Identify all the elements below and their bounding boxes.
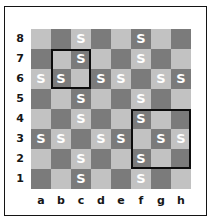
file-label-b: b	[51, 193, 71, 209]
square-e7[interactable]	[111, 49, 131, 69]
square-h2[interactable]	[171, 149, 191, 169]
square-c6[interactable]	[71, 69, 91, 89]
square-h7[interactable]	[171, 49, 191, 69]
board-area: 87654321 abcdefgh SSSSSSSSSSSSSSSSSSSSSS…	[5, 7, 208, 217]
square-d7[interactable]	[91, 49, 111, 69]
file-label-f: f	[131, 193, 151, 209]
square-h1[interactable]	[171, 169, 191, 189]
square-a1[interactable]	[31, 169, 51, 189]
rank-label-1: 1	[13, 169, 27, 189]
square-e3[interactable]: S	[111, 129, 131, 149]
marker-c7: S	[71, 49, 91, 69]
square-g5[interactable]	[151, 89, 171, 109]
rank-label-3: 3	[13, 129, 27, 149]
square-h8[interactable]	[171, 29, 191, 49]
square-c4[interactable]: S	[71, 109, 91, 129]
rank-label-8: 8	[13, 29, 27, 49]
square-g6[interactable]: S	[151, 69, 171, 89]
square-a7[interactable]	[31, 49, 51, 69]
marker-e6: S	[111, 69, 131, 89]
marker-b6: S	[51, 69, 71, 89]
square-a6[interactable]: S	[31, 69, 51, 89]
square-f2[interactable]: S	[131, 149, 151, 169]
square-b8[interactable]	[51, 29, 71, 49]
square-g2[interactable]	[151, 149, 171, 169]
marker-d6: S	[91, 69, 111, 89]
file-label-d: d	[91, 193, 111, 209]
square-g1[interactable]	[151, 169, 171, 189]
square-e1[interactable]	[111, 169, 131, 189]
square-e4[interactable]	[111, 109, 131, 129]
square-a4[interactable]	[31, 109, 51, 129]
rank-label-2: 2	[13, 149, 27, 169]
square-h6[interactable]: S	[171, 69, 191, 89]
square-a5[interactable]	[31, 89, 51, 109]
marker-c1: S	[71, 169, 91, 189]
marker-c4: S	[71, 109, 91, 129]
square-g7[interactable]	[151, 49, 171, 69]
marker-b3: S	[51, 129, 71, 149]
square-d5[interactable]	[91, 89, 111, 109]
marker-f7: S	[131, 49, 151, 69]
square-f5[interactable]: S	[131, 89, 151, 109]
square-b1[interactable]	[51, 169, 71, 189]
square-h5[interactable]	[171, 89, 191, 109]
rank-label-5: 5	[13, 89, 27, 109]
file-label-g: g	[151, 193, 171, 209]
marker-d3: S	[91, 129, 111, 149]
square-d8[interactable]	[91, 29, 111, 49]
marker-g6: S	[151, 69, 171, 89]
square-h4[interactable]	[171, 109, 191, 129]
square-b3[interactable]: S	[51, 129, 71, 149]
square-c3[interactable]	[71, 129, 91, 149]
square-e2[interactable]	[111, 149, 131, 169]
square-f8[interactable]: S	[131, 29, 151, 49]
square-c7[interactable]: S	[71, 49, 91, 69]
square-d1[interactable]	[91, 169, 111, 189]
rank-label-4: 4	[13, 109, 27, 129]
square-f1[interactable]: S	[131, 169, 151, 189]
square-a2[interactable]	[31, 149, 51, 169]
square-d4[interactable]	[91, 109, 111, 129]
square-d2[interactable]	[91, 149, 111, 169]
square-g4[interactable]	[151, 109, 171, 129]
square-b6[interactable]: S	[51, 69, 71, 89]
marker-f5: S	[131, 89, 151, 109]
square-b7[interactable]	[51, 49, 71, 69]
square-b4[interactable]	[51, 109, 71, 129]
square-d6[interactable]: S	[91, 69, 111, 89]
file-label-c: c	[71, 193, 91, 209]
square-h3[interactable]: S	[171, 129, 191, 149]
rank-label-6: 6	[13, 69, 27, 89]
marker-c5: S	[71, 89, 91, 109]
marker-f2: S	[131, 149, 151, 169]
square-c2[interactable]: S	[71, 149, 91, 169]
marker-e3: S	[111, 129, 131, 149]
marker-c2: S	[71, 149, 91, 169]
square-e6[interactable]: S	[111, 69, 131, 89]
square-a8[interactable]	[31, 29, 51, 49]
square-c5[interactable]: S	[71, 89, 91, 109]
marker-a6: S	[31, 69, 51, 89]
square-e5[interactable]	[111, 89, 131, 109]
square-f7[interactable]: S	[131, 49, 151, 69]
marker-c8: S	[71, 29, 91, 49]
square-g8[interactable]	[151, 29, 171, 49]
square-f6[interactable]	[131, 69, 151, 89]
chessboard[interactable]: SSSSSSSSSSSSSSSSSSSSSSSS	[31, 29, 191, 189]
square-e8[interactable]	[111, 29, 131, 49]
file-label-e: e	[111, 193, 131, 209]
square-a3[interactable]: S	[31, 129, 51, 149]
file-label-h: h	[171, 193, 191, 209]
marker-f4: S	[131, 109, 151, 129]
square-f3[interactable]	[131, 129, 151, 149]
square-c1[interactable]: S	[71, 169, 91, 189]
square-b2[interactable]	[51, 149, 71, 169]
marker-f8: S	[131, 29, 151, 49]
marker-h6: S	[171, 69, 191, 89]
square-g3[interactable]: S	[151, 129, 171, 149]
square-d3[interactable]: S	[91, 129, 111, 149]
square-b5[interactable]	[51, 89, 71, 109]
square-c8[interactable]: S	[71, 29, 91, 49]
square-f4[interactable]: S	[131, 109, 151, 129]
